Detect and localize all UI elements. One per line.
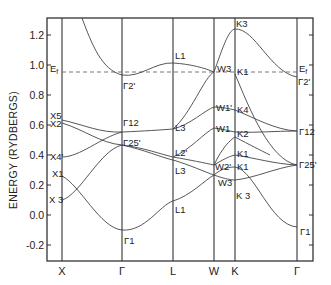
label-K3-bottom: K 3 xyxy=(236,190,250,201)
label-X2: X2 xyxy=(50,118,62,129)
label-G25p-right: Γ25' xyxy=(299,159,317,170)
gamma-right-labels: Γ2' Γ12 Γ25' Γ1 xyxy=(298,76,317,237)
label-L1-bottom: L1 xyxy=(175,204,186,215)
ytick-0.2: 0.2 xyxy=(29,179,44,191)
label-K1-low: K1 xyxy=(237,161,249,172)
x-point-labels: X5 X2 X4' X1 X 3 xyxy=(49,110,64,205)
label-G12-right: Γ12 xyxy=(299,126,315,137)
kpoint-X: X xyxy=(58,265,66,277)
kpoint-Gamma-2: Γ xyxy=(294,265,300,277)
band-4b xyxy=(173,72,214,129)
gamma-left-labels: Γ2' Γ12 Γ25' Γ1 xyxy=(123,80,141,246)
label-X3: X 3 xyxy=(49,194,63,205)
k-labels: K3 K1 K4 K2 K1 K1 K 3 xyxy=(236,18,250,201)
ef-label-left: Ef xyxy=(50,63,58,75)
label-W1: W1 xyxy=(216,123,230,134)
label-X4p: X4' xyxy=(50,151,64,162)
kpoint-K: K xyxy=(231,265,239,277)
band-structure-plot: 1.2 1.0 0.8 0.6 0.4 0.2 0.0 -0.2 ENERGY … xyxy=(0,0,331,285)
band-8 xyxy=(62,145,122,200)
label-G1-right: Γ1 xyxy=(300,226,311,237)
band-3b xyxy=(122,145,214,175)
label-X1: X1 xyxy=(52,168,64,179)
label-W3-top: W3 xyxy=(217,63,231,74)
kpoint-W: W xyxy=(209,265,220,277)
label-K3-top: K3 xyxy=(236,18,248,29)
ytick-neg0.2: -0.2 xyxy=(26,239,44,251)
label-K2: K2 xyxy=(237,128,249,139)
k-point-labels: X Γ L W K Γ xyxy=(58,265,300,277)
kpoint-Gamma: Γ xyxy=(119,265,125,277)
label-G2p-right: Γ2' xyxy=(298,76,311,87)
ytick-0.6: 0.6 xyxy=(29,119,44,131)
label-W3-bottom: W3 xyxy=(218,177,232,188)
y-axis-label: ENERGY (RYDBERGS) xyxy=(7,91,19,209)
label-K1-mid: K1 xyxy=(237,148,249,159)
label-L1-top: L1 xyxy=(175,50,186,61)
label-K4: K4 xyxy=(237,104,249,115)
label-W2p: W2' xyxy=(215,161,231,172)
band-structure-figure: 1.2 1.0 0.8 0.6 0.4 0.2 0.0 -0.2 ENERGY … xyxy=(0,0,331,285)
label-G25p: Γ25' xyxy=(123,137,141,148)
label-K1-ef: K1 xyxy=(237,66,249,77)
ef-label-right: Ef xyxy=(299,63,307,75)
ytick-0.0: 0.0 xyxy=(29,209,44,221)
label-L3-lower: L3 xyxy=(175,165,186,176)
ytick-0.4: 0.4 xyxy=(29,149,44,161)
band-7 xyxy=(62,167,297,230)
label-G1: Γ1 xyxy=(124,235,135,246)
label-W1p: W1' xyxy=(216,102,232,113)
ytick-0.8: 0.8 xyxy=(29,89,44,101)
label-G2p: Γ2' xyxy=(123,80,136,91)
kpoint-L: L xyxy=(170,265,176,277)
w-point-labels: W3 W1' W1 W2' W3 xyxy=(215,63,232,188)
ytick-1.2: 1.2 xyxy=(29,29,44,41)
ytick-1.0: 1.0 xyxy=(29,59,44,71)
label-G12: Γ12 xyxy=(123,117,139,128)
label-L2p: L2' xyxy=(175,147,188,158)
y-axis-tick-labels: 1.2 1.0 0.8 0.6 0.4 0.2 0.0 -0.2 xyxy=(26,29,44,251)
l-point-labels: L1 L3 L2' L3 L1 xyxy=(175,50,188,215)
label-L3-upper: L3 xyxy=(175,122,186,133)
band-1 xyxy=(82,18,297,77)
